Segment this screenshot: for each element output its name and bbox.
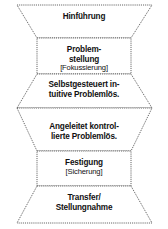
segment-label-hinfuehrung: Hinführung <box>0 12 168 22</box>
diagram-label-layer: Hinführung Problem- stellung [Fokussieru… <box>0 0 168 229</box>
segment-line: Stellungnahme <box>0 203 168 213</box>
segment-label-festigung: Festigung [Sicherung] <box>0 158 168 177</box>
segment-line: Transfer/ <box>0 193 168 203</box>
segment-line: [Fokussierung] <box>0 64 168 73</box>
funnel-diagram: Hinführung Problem- stellung [Fokussieru… <box>0 0 168 229</box>
segment-label-selbstgesteuert: Selbstgesteuert in- tuitive Problemlös. <box>0 80 168 99</box>
segment-label-transfer: Transfer/ Stellungnahme <box>0 193 168 212</box>
segment-line: lierte Problemlös. <box>0 132 168 142</box>
segment-line: [Sicherung] <box>0 168 168 177</box>
segment-line: tuitive Problemlös. <box>0 90 168 100</box>
segment-line: Hinführung <box>0 12 168 22</box>
segment-line: Problem- <box>0 45 168 55</box>
segment-line: Selbstgesteuert in- <box>0 80 168 90</box>
segment-line: Angeleitet kontrol- <box>0 122 168 132</box>
segment-label-angeleitet: Angeleitet kontrol- lierte Problemlös. <box>0 122 168 141</box>
segment-label-problemstellung: Problem- stellung [Fokussierung] <box>0 45 168 73</box>
